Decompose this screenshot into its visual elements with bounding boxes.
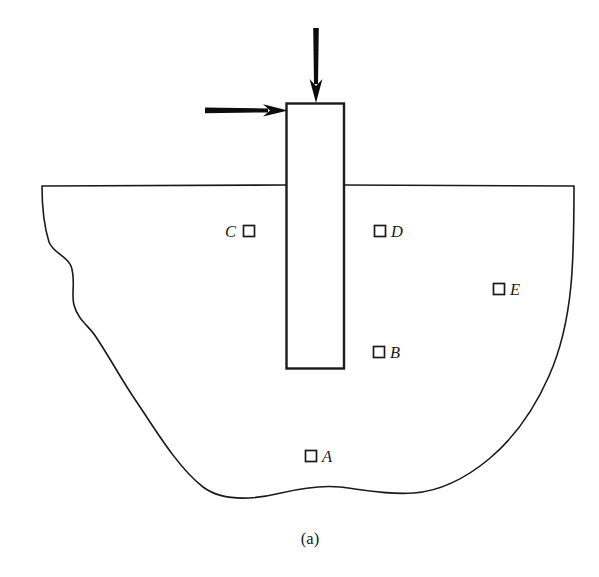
point-label-c: C: [225, 222, 237, 241]
point-label-d: D: [390, 222, 403, 241]
point-marker-d: D: [375, 222, 404, 241]
point-square-e: [494, 284, 505, 295]
ground-surface-left: [42, 185, 286, 186]
point-marker-c: C: [225, 222, 255, 241]
figure-container: C D E B A (a): [0, 0, 599, 577]
vertical-load-arrow-shaft: [313, 28, 319, 84]
point-square-b: [374, 347, 385, 358]
point-square-c: [244, 226, 255, 237]
point-label-b: B: [390, 343, 400, 362]
figure-caption: (a): [301, 529, 319, 548]
point-square-d: [375, 226, 386, 237]
ground-surface-right: [344, 185, 574, 186]
soil-pile-diagram: C D E B A (a): [0, 0, 599, 577]
point-marker-e: E: [494, 280, 521, 299]
point-square-a: [306, 451, 317, 462]
horizontal-load-arrow: [205, 104, 288, 116]
vertical-load-arrow: [310, 28, 323, 103]
point-marker-a: A: [306, 447, 334, 466]
point-marker-b: B: [374, 343, 401, 362]
pile-foundation: [287, 104, 345, 369]
horizontal-load-arrow-shaft: [205, 108, 268, 114]
point-label-e: E: [509, 280, 520, 299]
point-label-a: A: [321, 447, 333, 466]
